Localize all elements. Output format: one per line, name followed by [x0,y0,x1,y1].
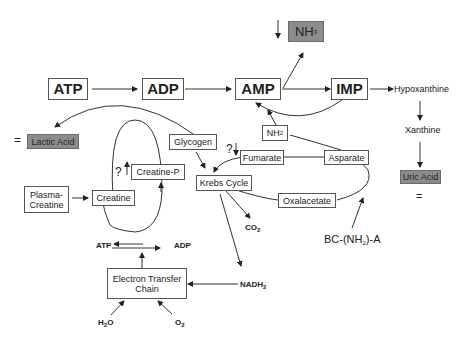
etc-label-line2: Chain [135,284,159,294]
co2-subscript: 2 [257,227,260,233]
atp-label: ATP [54,84,83,94]
metabolic-pathway-diagram: ATP ADP AMP IMP NH3 Hypoxanthine Xanthin… [0,0,465,343]
creatine-question-mark: ? [115,165,122,179]
nh3-node: NH3 [288,21,324,42]
creatine-p-label: Creatine-P [136,167,179,177]
imp-label: IMP [336,84,363,94]
plasma-creatine-node: Plasma- Creatine [24,186,69,213]
fumarate-question-mark: ? [226,142,233,156]
fumarate-label: Fumarate [243,153,282,163]
oxalacetate-node: Oxalacetate [278,193,336,208]
nh3-label: NH [295,27,314,37]
fumarate-node: Fumarate [240,150,284,165]
connector-lines [0,0,465,343]
uric-acid-label: Uric Acid [403,172,439,182]
xanthine-label: Xanthine [405,125,441,135]
creatine-label: Creatine [96,193,130,203]
glycogen-node: Glycogen [169,134,217,150]
lactic-acid-label: Lactic Acid [31,137,74,147]
krebs-cycle-node: Krebs Cycle [196,175,252,191]
co2-text: CO [245,223,257,232]
o2-subscript: 2 [181,322,184,328]
nh2-label: NH [267,128,280,138]
hypoxanthine-label: Hypoxanthine [394,84,449,94]
lactic-acid-equals: = [14,133,21,147]
adp-label: ADP [147,84,179,94]
nadh2-label: NADH2 [240,280,266,290]
uric-acid-equals: = [416,190,422,202]
electron-transfer-chain-node: Electron Transfer Chain [107,268,187,299]
etc-label-line1: Electron Transfer [113,274,182,284]
creatine-p-node: Creatine-P [131,164,185,180]
plasma-creatine-label-line2: Creatine [29,200,63,210]
atp-small-label: ATP [96,241,111,250]
bc-text-post: )-A [366,233,381,245]
creatine-node: Creatine [92,190,135,206]
glycogen-label: Glycogen [174,137,212,147]
nh3-subscript: 3 [314,27,317,37]
h2o-text-post: O [107,318,113,327]
uric-acid-node: Uric Acid [400,170,441,184]
oxalacetate-label: Oxalacetate [283,196,331,206]
o2-label: O2 [175,318,185,328]
amp-label: AMP [241,84,274,94]
co2-label: CO2 [245,223,260,233]
plasma-creatine-label-line1: Plasma- [30,190,63,200]
nadh2-text: NADH [240,280,263,289]
asparate-label: Asparate [328,153,364,163]
imp-node: IMP [331,78,368,100]
bc-text-pre: BC-(NH [324,233,363,245]
krebs-cycle-label: Krebs Cycle [200,178,249,188]
bc-nh2-a-label: BC-(NH2)-A [324,233,381,246]
nh2-node: NH2 [262,125,288,141]
amp-node: AMP [235,78,281,100]
lactic-acid-node: Lactic Acid [27,134,79,149]
nadh2-subscript: 2 [263,284,266,290]
atp-node: ATP [48,78,88,100]
h2o-label: H2O [98,318,113,328]
adp-node: ADP [142,78,184,100]
asparate-node: Asparate [324,150,369,165]
adp-small-label: ADP [174,241,191,250]
nh2-subscript: 2 [280,128,283,138]
